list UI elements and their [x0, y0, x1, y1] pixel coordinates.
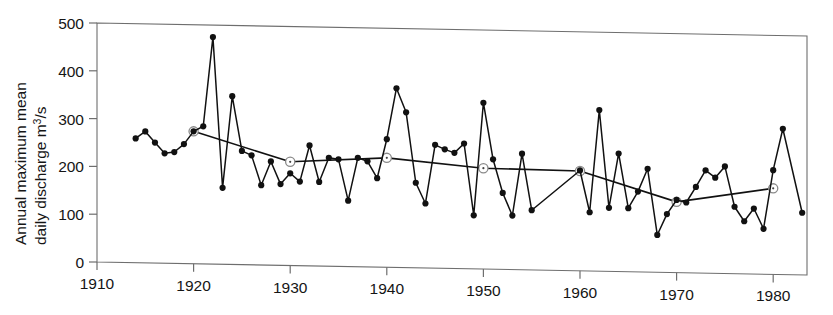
data-point [693, 184, 699, 190]
data-point [683, 199, 689, 205]
x-tick-label: 1930 [273, 279, 308, 296]
data-point [760, 226, 766, 232]
data-point [780, 126, 786, 132]
data-point [210, 34, 216, 40]
data-point [587, 209, 593, 215]
data-point [529, 207, 535, 213]
data-point [393, 85, 399, 91]
data-point [200, 123, 206, 129]
y-tick-label: 200 [58, 158, 84, 175]
line-chart: 0100200300400500191019201930194019501960… [0, 0, 833, 315]
data-point [229, 93, 235, 99]
x-tick-label: 1980 [756, 287, 791, 304]
data-point [335, 156, 341, 162]
y-axis: 0100200300400500 [58, 15, 97, 271]
data-point [142, 128, 148, 134]
data-point [422, 200, 428, 206]
y-tick-label: 100 [58, 206, 84, 223]
y-axis-title-line2: daily discharge m3/s [31, 106, 49, 245]
data-point [133, 135, 139, 141]
y-tick-label: 400 [58, 63, 84, 80]
data-point [442, 146, 448, 152]
data-point [239, 148, 245, 154]
data-point [751, 205, 757, 211]
data-point [722, 163, 728, 169]
data-point [181, 141, 187, 147]
y-axis-title-line1: Annual maximum mean [12, 82, 29, 245]
data-point [731, 204, 737, 210]
data-point [616, 150, 622, 156]
data-point [287, 170, 293, 176]
data-point [306, 142, 312, 148]
y-tick-label: 0 [75, 254, 84, 271]
x-tick-label: 1970 [659, 286, 694, 303]
y-tick-label: 500 [58, 15, 84, 32]
plot-frame [97, 23, 807, 275]
data-point [741, 218, 747, 224]
data-point [432, 142, 438, 148]
data-point [355, 155, 361, 161]
data-point [403, 109, 409, 115]
data-point [770, 167, 776, 173]
data-point [277, 181, 283, 187]
trend-marker-center [386, 157, 388, 159]
data-point [664, 211, 670, 217]
data-point [490, 156, 496, 162]
y-tick-label: 300 [58, 111, 84, 128]
x-tick-label: 1920 [176, 277, 211, 294]
data-point [171, 149, 177, 155]
data-point [519, 151, 525, 157]
trend-marker-center [289, 161, 291, 163]
x-tick-label: 1910 [80, 275, 115, 292]
x-tick-label: 1940 [370, 280, 405, 297]
y-axis-title: Annual maximum meandaily discharge m3/s [12, 82, 49, 245]
data-point [345, 198, 351, 204]
x-tick-label: 1960 [563, 284, 598, 301]
x-tick-label: 1950 [466, 282, 501, 299]
data-point [596, 107, 602, 113]
data-point [152, 140, 158, 146]
data-point [606, 205, 612, 211]
data-point [461, 140, 467, 146]
data-point [364, 158, 370, 164]
annual-maxima-line [136, 37, 803, 235]
data-point [500, 190, 506, 196]
data-point [702, 167, 708, 173]
data-point [712, 175, 718, 181]
data-point [577, 167, 583, 173]
data-point [509, 212, 515, 218]
trend-series [189, 127, 778, 207]
data-point [635, 189, 641, 195]
data-point [297, 178, 303, 184]
data-point [480, 100, 486, 106]
trend-marker-center [772, 187, 774, 189]
data-point [413, 180, 419, 186]
data-point [268, 158, 274, 164]
data-point [451, 150, 457, 156]
data-point [471, 212, 477, 218]
trend-marker-center [482, 167, 484, 169]
data-point [258, 182, 264, 188]
data-point [191, 128, 197, 134]
data-point [384, 136, 390, 142]
data-point [625, 205, 631, 211]
data-point [316, 179, 322, 185]
data-point [645, 166, 651, 172]
chart-figure: 0100200300400500191019201930194019501960… [0, 0, 833, 315]
data-point [248, 152, 254, 158]
data-point [673, 197, 679, 203]
data-point [326, 155, 332, 161]
data-point [374, 175, 380, 181]
data-point [219, 185, 225, 191]
data-point [162, 150, 168, 156]
data-point [654, 232, 660, 238]
annual-maxima-series [133, 34, 806, 238]
data-point [799, 210, 805, 216]
